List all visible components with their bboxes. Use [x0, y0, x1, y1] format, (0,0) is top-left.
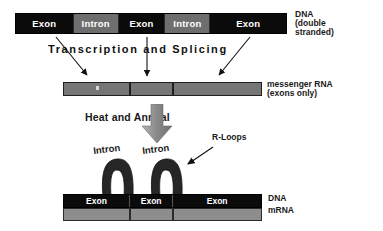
hybrid-strand-labels: DNA mRNA: [268, 192, 294, 217]
hybrid-dna-exon-1: Exon: [64, 195, 129, 207]
hybrid-mrna-segment-2: [129, 209, 172, 220]
hybrid-dna-strand: Exon Exon Exon: [63, 194, 262, 208]
hybrid-mrna-segment-1: [64, 209, 129, 220]
hybrid-mrna-strand: [63, 208, 262, 221]
intron-loop-1: [102, 159, 133, 196]
rloop-diagram-canvas: Exon Intron Exon Intron Exon DNA (double…: [0, 0, 383, 231]
hybrid-label-dna: DNA: [268, 192, 294, 204]
intron-loop-2: [151, 159, 182, 196]
hybrid-mrna-segment-3: [172, 209, 261, 220]
hybrid-label-mrna: mRNA: [268, 204, 294, 216]
hybrid-dna-exon-3: Exon: [172, 195, 261, 207]
hybrid-dna-exon-2: Exon: [129, 195, 172, 207]
